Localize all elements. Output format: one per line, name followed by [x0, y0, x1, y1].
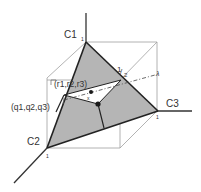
- simplex-diagram: C1 1 C3 1 C2 1 1 / 2 (r1,r2,r3) (q1,q2,q…: [0, 0, 201, 192]
- half-label-slash: /: [120, 67, 123, 76]
- c3-label: C3: [166, 98, 179, 109]
- c2-label: C2: [27, 136, 40, 147]
- c3-tick: 1: [156, 114, 159, 120]
- c2-axis: [14, 148, 47, 183]
- q-point-label: (q1,q2,q3): [11, 102, 50, 112]
- lambda-label: λ: [155, 70, 160, 77]
- r-point-dot: [89, 90, 93, 94]
- r-point-label: (r1,r2,r3): [54, 79, 87, 89]
- c1-tick: 1: [81, 36, 84, 42]
- q-point-dot: [95, 101, 100, 106]
- c1-label: C1: [64, 29, 77, 40]
- c2-tick: 1: [46, 153, 49, 159]
